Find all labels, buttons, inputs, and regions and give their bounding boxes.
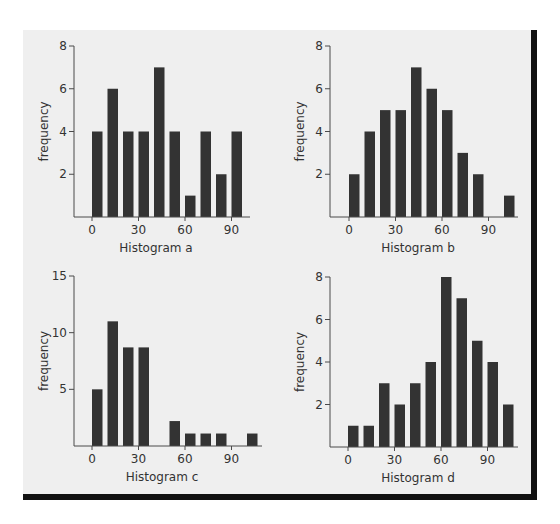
- x-tick-label: 30: [387, 453, 402, 467]
- histogram-d: 24680306090Histogram dfrequency: [0, 0, 560, 524]
- histogram-bar: [410, 383, 421, 447]
- histogram-bar: [441, 277, 452, 447]
- y-tick-label: 2: [315, 398, 323, 412]
- histogram-bar: [457, 298, 468, 447]
- x-tick-label: 90: [480, 453, 495, 467]
- histogram-bar: [395, 405, 406, 448]
- x-tick-label: 60: [433, 453, 448, 467]
- histogram-bar: [364, 426, 375, 447]
- x-axis-title: Histogram d: [381, 471, 455, 485]
- histogram-bar: [503, 405, 514, 448]
- y-axis-title: frequency: [293, 332, 307, 392]
- histogram-bar: [426, 362, 437, 447]
- histogram-bar: [488, 362, 499, 447]
- histogram-bar: [379, 383, 390, 447]
- y-tick-label: 8: [315, 270, 323, 284]
- y-tick-label: 6: [315, 313, 323, 327]
- y-tick-label: 4: [315, 355, 323, 369]
- histogram-bar: [348, 426, 359, 447]
- x-tick-label: 0: [344, 453, 352, 467]
- histogram-bar: [472, 341, 483, 447]
